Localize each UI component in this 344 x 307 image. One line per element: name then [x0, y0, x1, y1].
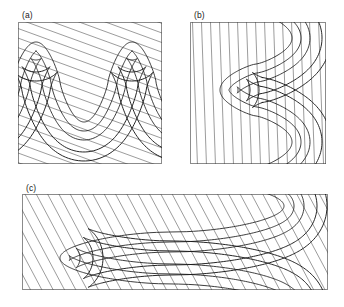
- panel-c: [22, 194, 328, 290]
- panel-c-drawing: [22, 194, 328, 290]
- panel-a: [18, 22, 162, 164]
- panel-c-label: (c): [26, 184, 36, 193]
- panel-b-drawing: [190, 22, 326, 164]
- panel-b: [190, 22, 326, 164]
- fold-profile-figure: (a) (b) (c): [0, 0, 344, 307]
- panel-a-label: (a): [22, 11, 33, 20]
- panel-b-label: (b): [194, 11, 205, 20]
- panel-a-drawing: [18, 22, 162, 164]
